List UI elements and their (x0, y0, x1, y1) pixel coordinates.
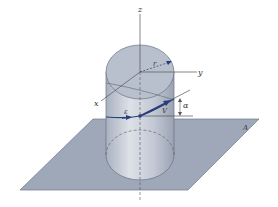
cylinder-diagram: z y x r ε V α A (0, 0, 278, 207)
alpha-arrowhead-top (178, 98, 182, 102)
label-x: x (94, 99, 99, 108)
alpha-arrowhead-bottom (178, 112, 182, 116)
label-epsilon: ε (124, 108, 128, 116)
label-a: A (242, 124, 248, 132)
label-y: y (197, 68, 203, 77)
label-z: z (137, 5, 143, 14)
contact-point (138, 114, 142, 118)
label-alpha: α (183, 101, 189, 110)
